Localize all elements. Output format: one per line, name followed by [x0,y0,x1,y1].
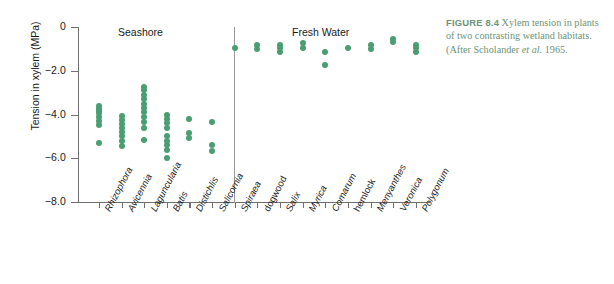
x-category-label: Polygonum [419,166,451,213]
data-point [209,119,215,125]
caption-year: 1965. [542,44,567,55]
data-point [119,113,125,119]
data-point [141,137,147,143]
x-tick-mark [235,202,236,208]
data-point [164,112,170,118]
y-tick-label: 0 [60,20,66,32]
x-tick-mark [393,202,394,208]
y-tick-label: −6.0 [45,151,66,163]
data-point [413,42,419,48]
x-tick-mark [99,202,100,208]
x-tick-mark [167,202,168,208]
data-point [322,62,328,68]
data-point [186,116,192,122]
data-point [141,119,147,125]
caption-et-al: et al. [522,44,542,55]
y-tick-mark [71,27,78,28]
x-category-label: Spiraea [238,179,263,213]
x-tick-mark [416,202,417,208]
data-point [186,130,192,136]
y-axis-title: Tension in xylem (MPa) [29,0,41,156]
x-tick-mark [122,202,123,208]
data-point [96,140,102,146]
group-label-freshwater: Fresh Water [292,26,349,38]
x-tick-mark [212,202,213,208]
x-tick-mark [348,202,349,208]
data-point [322,49,328,55]
y-axis-spine [78,27,79,203]
data-point [368,42,374,48]
y-tick-mark [71,71,78,72]
data-point [345,45,351,51]
x-tick-mark [303,202,304,208]
figure-caption: FIGURE 8.4 Xylem tension in plants of tw… [446,16,606,56]
data-point [254,42,260,48]
x-tick-mark [280,202,281,208]
x-tick-mark [144,202,145,208]
caption-figure-number: FIGURE 8.4 [446,17,499,28]
x-tick-mark [371,202,372,208]
x-tick-mark [257,202,258,208]
data-point [209,142,215,148]
x-category-label: Myrica [306,183,329,213]
data-point [164,155,170,161]
data-point [277,42,283,48]
data-point [141,125,147,131]
data-point [96,103,102,109]
x-tick-mark [189,202,190,208]
y-tick-mark [71,202,78,203]
y-tick-label: −8.0 [45,195,66,207]
y-tick-label: −4.0 [45,108,66,120]
y-tick-mark [71,115,78,116]
figure-container: Tension in xylem (MPa) −8.0−6.0−4.0−2.00… [0,0,614,284]
data-point [119,143,125,149]
group-label-seashore: Seashore [118,26,163,38]
x-tick-mark [325,202,326,208]
y-tick-mark [71,158,78,159]
data-point [209,148,215,154]
y-tick-label: −2.0 [45,64,66,76]
data-point [232,45,238,51]
